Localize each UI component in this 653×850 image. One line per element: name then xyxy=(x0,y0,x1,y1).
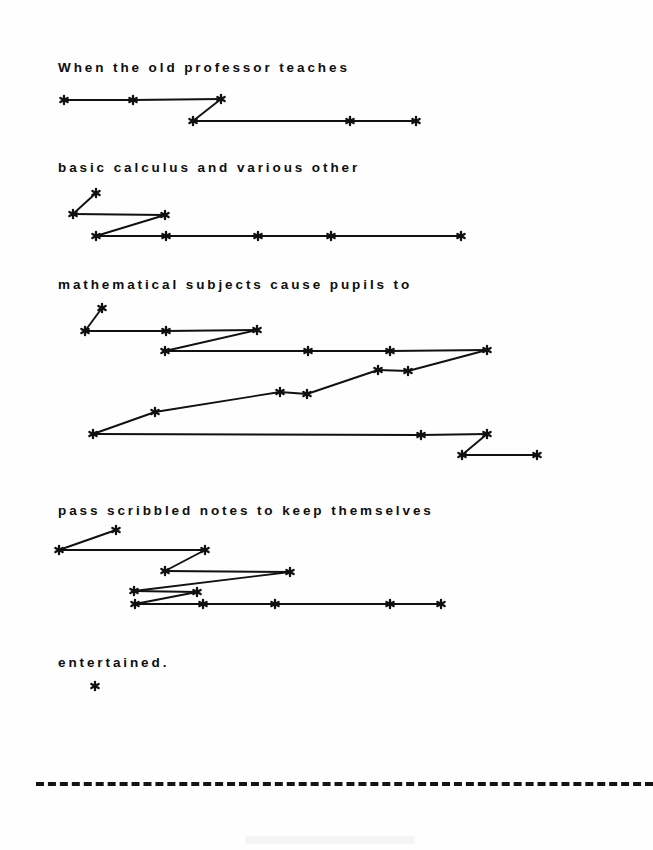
contour-group-1 xyxy=(60,95,419,125)
asterisk-node xyxy=(91,682,98,690)
asterisk-node xyxy=(98,304,105,312)
contour-segment xyxy=(155,392,280,412)
asterisk-node xyxy=(457,232,464,240)
document-page: When the old professor teaches basic cal… xyxy=(0,0,653,850)
contour-segment xyxy=(93,412,155,434)
asterisk-node xyxy=(386,600,393,608)
contour-group-4 xyxy=(55,526,444,608)
asterisk-node xyxy=(458,451,465,459)
contour-segment xyxy=(134,591,197,592)
contour-segment xyxy=(133,99,221,100)
sentence-line-3: mathematical subjects cause pupils to xyxy=(58,277,412,292)
asterisk-node xyxy=(327,232,334,240)
asterisk-node xyxy=(533,451,540,459)
contour-segment xyxy=(166,330,257,331)
contour-group-3 xyxy=(81,304,540,459)
contour-segment xyxy=(73,193,96,214)
asterisk-node xyxy=(161,347,168,355)
asterisk-node xyxy=(92,232,99,240)
asterisk-node xyxy=(412,117,419,125)
contour-segment xyxy=(421,434,487,435)
asterisk-node xyxy=(201,546,208,554)
contour-group-2 xyxy=(69,189,464,240)
contour-segment xyxy=(378,370,408,371)
contour-segment xyxy=(134,572,290,591)
contour-segment xyxy=(408,350,487,371)
asterisk-node xyxy=(129,96,136,104)
dashed-separator-rule xyxy=(36,782,653,786)
asterisk-node xyxy=(55,546,62,554)
asterisk-node xyxy=(81,327,88,335)
contour-segment xyxy=(390,350,487,351)
asterisk-node xyxy=(131,600,138,608)
asterisk-node xyxy=(303,390,310,398)
asterisk-node xyxy=(161,211,168,219)
asterisk-node xyxy=(162,327,169,335)
asterisk-node xyxy=(162,232,169,240)
contour-segment xyxy=(165,330,257,351)
asterisk-node xyxy=(199,600,206,608)
asterisk-node xyxy=(286,568,293,576)
sentence-line-2: basic calculus and various other xyxy=(58,160,360,175)
asterisk-node xyxy=(417,431,424,439)
faint-footer-smudge xyxy=(245,836,415,844)
asterisk-node xyxy=(386,347,393,355)
sentence-line-1: When the old professor teaches xyxy=(58,60,350,75)
contour-segment xyxy=(73,214,165,215)
asterisk-node xyxy=(271,600,278,608)
asterisk-node xyxy=(304,347,311,355)
asterisk-contour-plot xyxy=(0,0,653,850)
contour-segment xyxy=(59,530,116,550)
asterisk-node xyxy=(217,95,224,103)
asterisk-node xyxy=(437,600,444,608)
asterisk-node xyxy=(483,346,490,354)
asterisk-node xyxy=(69,210,76,218)
contour-segment xyxy=(93,434,421,435)
asterisk-node xyxy=(276,388,283,396)
asterisk-node xyxy=(189,117,196,125)
asterisk-node xyxy=(346,117,353,125)
asterisk-node xyxy=(89,430,96,438)
asterisk-node xyxy=(404,367,411,375)
contour-segment xyxy=(193,99,221,121)
asterisk-node xyxy=(374,366,381,374)
contour-segment xyxy=(85,308,102,331)
asterisk-node xyxy=(60,96,67,104)
asterisk-node xyxy=(253,326,260,334)
contour-segment xyxy=(165,571,290,572)
contour-segment xyxy=(135,592,197,604)
asterisk-node xyxy=(254,232,261,240)
sentence-line-5: entertained. xyxy=(58,655,169,670)
contour-segment xyxy=(165,550,205,571)
asterisk-node xyxy=(92,189,99,197)
contour-segment xyxy=(462,434,487,455)
asterisk-node xyxy=(483,430,490,438)
asterisk-node xyxy=(151,408,158,416)
asterisk-node xyxy=(193,588,200,596)
sentence-line-4: pass scribbled notes to keep themselves xyxy=(58,503,434,518)
contour-segment xyxy=(307,370,378,394)
contour-segment xyxy=(96,215,165,236)
asterisk-node xyxy=(161,567,168,575)
contour-segment xyxy=(280,392,307,394)
asterisk-node xyxy=(130,587,137,595)
asterisk-node xyxy=(112,526,119,534)
contour-group-5 xyxy=(91,682,98,690)
